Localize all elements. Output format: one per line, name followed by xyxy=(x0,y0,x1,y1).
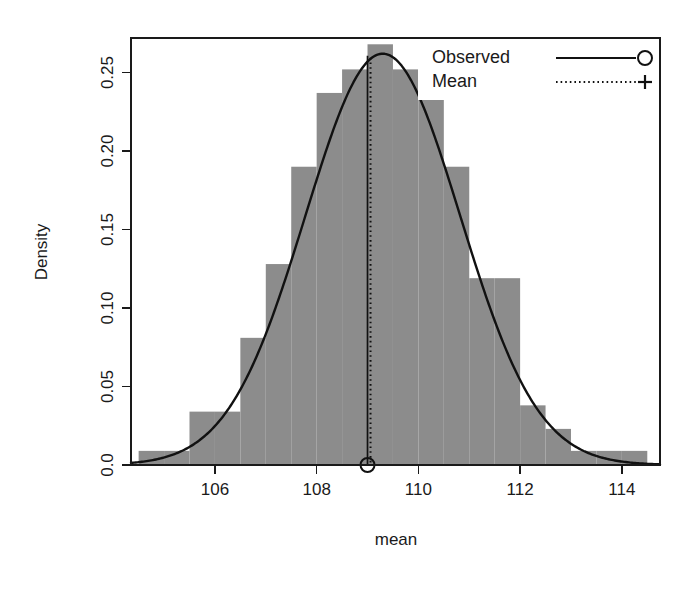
y-tick-label: 0.10 xyxy=(98,291,117,324)
legend-label-mean: Mean xyxy=(432,71,477,91)
y-tick-label: 0.05 xyxy=(98,370,117,403)
x-tick-label: 114 xyxy=(608,480,635,499)
y-axis-title: Density xyxy=(32,223,51,280)
histogram-plot: 0.00.050.100.150.200.25 106108110112114 … xyxy=(0,0,697,592)
histogram-bar xyxy=(291,167,316,465)
histogram-bar xyxy=(317,93,342,465)
histogram-bar xyxy=(571,451,596,465)
x-axis-title: mean xyxy=(375,530,418,549)
chart-canvas: 0.00.050.100.150.200.25 106108110112114 … xyxy=(0,0,697,592)
y-tick-label: 0.15 xyxy=(98,213,117,246)
legend: Observed Mean xyxy=(418,40,656,100)
histogram-bar xyxy=(469,278,494,465)
legend-label-observed: Observed xyxy=(432,47,510,67)
x-tick-label: 112 xyxy=(507,480,534,499)
y-tick-label: 0.20 xyxy=(98,134,117,167)
histogram-bar xyxy=(342,69,367,465)
histogram-bar xyxy=(240,338,265,465)
y-tick-label: 0.0 xyxy=(98,453,117,477)
histogram-bar xyxy=(393,69,418,465)
x-tick-label: 110 xyxy=(405,480,432,499)
histogram-bar xyxy=(266,264,291,465)
y-tick-label: 0.25 xyxy=(98,56,117,89)
x-tick-label: 108 xyxy=(302,480,330,499)
x-tick-label: 106 xyxy=(201,480,229,499)
histogram-bar xyxy=(444,167,469,465)
histogram-bar xyxy=(215,412,240,465)
